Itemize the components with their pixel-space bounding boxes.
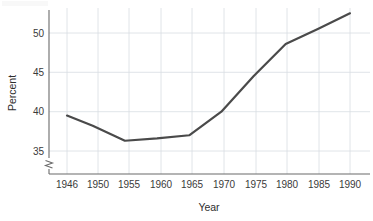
y-tick-label-45: 45 [33,67,45,78]
x-tick-label-1965: 1965 [181,179,204,190]
x-tick-label-1990: 1990 [339,179,362,190]
x-tick-label-1946: 1946 [56,179,79,190]
x-tick-label-1970: 1970 [213,179,236,190]
x-axis-title: Year [198,201,220,213]
data-series-line [67,13,350,140]
x-tick-labels: 1946 1950 1955 1960 1965 1970 1975 1980 … [56,179,362,190]
y-tick-label-35: 35 [33,146,45,157]
y-axis-title: Percent [6,75,18,111]
y-tick-label-40: 40 [33,106,45,117]
y-tick-labels: 50 45 40 35 [33,28,45,157]
y-axis-break-icon [46,161,53,169]
x-tick-label-1950: 1950 [87,179,110,190]
x-tick-label-1985: 1985 [308,179,331,190]
x-tick-label-1955: 1955 [118,179,141,190]
horizontal-gridlines [49,33,370,151]
x-tick-label-1960: 1960 [150,179,173,190]
chart-canvas: 50 45 40 35 1946 1950 1955 1960 1965 197… [0,0,373,221]
x-tick-label-1975: 1975 [245,179,268,190]
y-tick-label-50: 50 [33,28,45,39]
x-tick-label-1980: 1980 [276,179,299,190]
line-chart: 50 45 40 35 1946 1950 1955 1960 1965 197… [0,0,373,221]
